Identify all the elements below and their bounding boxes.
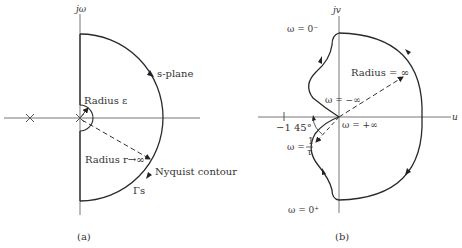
nyquist-figure: jω s-plane Radius ε Radius r→∞ Nyquist c… bbox=[0, 0, 462, 248]
arrow-icon bbox=[318, 56, 322, 64]
diagram-b: jv u ω = 0⁻ ω = 0⁺ ω = −∞ ω = +∞ Radius … bbox=[258, 5, 458, 242]
arrow-icon bbox=[322, 168, 326, 175]
svg-text:ω =: ω = bbox=[287, 142, 305, 152]
arrow-icon bbox=[312, 115, 316, 121]
omega-pos-inf-label: ω = +∞ bbox=[342, 120, 378, 130]
axis-label-jv: jv bbox=[331, 5, 341, 15]
arrow-icon bbox=[147, 70, 154, 77]
angle-45-label: 45° bbox=[294, 122, 312, 133]
lower-lobe-curve bbox=[311, 117, 339, 200]
omega-0-plus-label: ω = 0⁺ bbox=[288, 205, 319, 215]
omega-0-minus-label: ω = 0⁻ bbox=[287, 24, 318, 34]
omega-one-over-tau-label: ω = 1 τ bbox=[287, 136, 314, 157]
axis-label-jw: jω bbox=[74, 4, 87, 14]
nyquist-contour-label: Nyquist contour bbox=[155, 166, 237, 177]
arrow-icon bbox=[146, 172, 152, 179]
radius-epsilon-label: Radius ε bbox=[84, 95, 127, 106]
diagram-a: jω s-plane Radius ε Radius r→∞ Nyquist c… bbox=[4, 4, 237, 242]
caption-b: (b) bbox=[335, 231, 349, 242]
infinite-arc bbox=[339, 33, 422, 200]
s-plane-label: s-plane bbox=[157, 68, 194, 79]
minus-one-label: −1 bbox=[276, 122, 291, 133]
omega-neg-inf-label: ω = −∞ bbox=[325, 95, 361, 105]
arrow-icon bbox=[405, 49, 411, 55]
radius-infinity-label: Radius = ∞ bbox=[351, 67, 409, 78]
axis-label-u: u bbox=[452, 112, 458, 122]
gamma-s-label: Γs bbox=[133, 185, 145, 196]
svg-text:1: 1 bbox=[308, 136, 314, 146]
caption-a: (a) bbox=[77, 231, 91, 242]
radius-r-label: Radius r→∞ bbox=[85, 154, 145, 165]
